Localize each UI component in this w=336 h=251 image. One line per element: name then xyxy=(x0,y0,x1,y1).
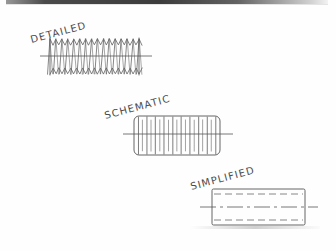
thread-simplified-icon xyxy=(0,0,336,251)
drawing-sheet: DETAILED SCHEMATIC SIMPLIFIED xyxy=(0,0,336,251)
figure-simplified xyxy=(0,0,336,251)
